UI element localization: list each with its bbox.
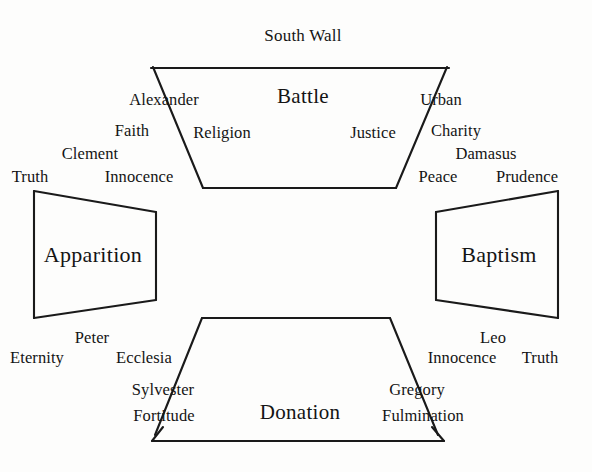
figure-label-damasus: Damasus — [455, 146, 516, 163]
apparition-panel-top-edge — [34, 191, 156, 212]
figure-label-justice: Justice — [350, 125, 396, 142]
figure-label-charity: Charity — [431, 123, 481, 140]
figure-label-fulmination: Fulmination — [382, 408, 464, 425]
figure-label-religion: Religion — [193, 125, 251, 142]
south-wall-diagram: South Wall Battle Apparition Baptism Don… — [0, 0, 592, 472]
figure-label-innocence-bottom: Innocence — [428, 350, 497, 367]
scene-label-donation: Donation — [260, 402, 341, 423]
figure-label-leo: Leo — [480, 330, 506, 347]
figure-label-clement: Clement — [62, 146, 119, 163]
figure-label-alexander: Alexander — [129, 92, 199, 109]
figure-label-peace: Peace — [419, 169, 458, 186]
figure-label-fortitude: Fortitude — [133, 408, 194, 425]
figure-label-gregory: Gregory — [389, 382, 445, 399]
apparition-panel-bottom-edge — [34, 300, 156, 318]
figure-label-faith: Faith — [115, 123, 149, 140]
scene-label-apparition: Apparition — [44, 244, 142, 266]
figure-label-truth-bottom: Truth — [522, 350, 559, 367]
figure-label-sylvester: Sylvester — [132, 382, 194, 399]
figure-label-truth-top: Truth — [12, 169, 49, 186]
figure-label-prudence: Prudence — [496, 169, 558, 186]
donation-panel-bottom-right-tick — [432, 427, 444, 441]
scene-label-baptism: Baptism — [461, 244, 536, 266]
figure-label-innocence-top: Innocence — [105, 169, 174, 186]
figure-label-ecclesia: Ecclesia — [116, 350, 172, 367]
baptism-panel-top-edge — [436, 191, 558, 212]
figure-label-urban: Urban — [420, 92, 462, 109]
baptism-panel-bottom-edge — [436, 300, 558, 318]
scene-label-battle: Battle — [277, 86, 329, 107]
wall-title: South Wall — [264, 27, 341, 44]
figure-label-eternity: Eternity — [10, 350, 64, 367]
figure-label-peter: Peter — [75, 330, 109, 347]
